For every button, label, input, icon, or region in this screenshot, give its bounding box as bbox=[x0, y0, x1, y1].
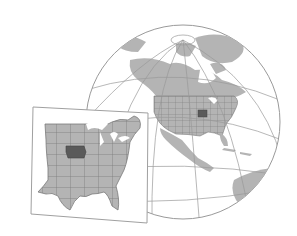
iowa-inset-highlight bbox=[66, 146, 86, 158]
map-illustration bbox=[0, 0, 297, 236]
inset-map bbox=[31, 107, 148, 223]
iowa-globe-highlight bbox=[198, 110, 207, 117]
illustration bbox=[0, 0, 297, 236]
